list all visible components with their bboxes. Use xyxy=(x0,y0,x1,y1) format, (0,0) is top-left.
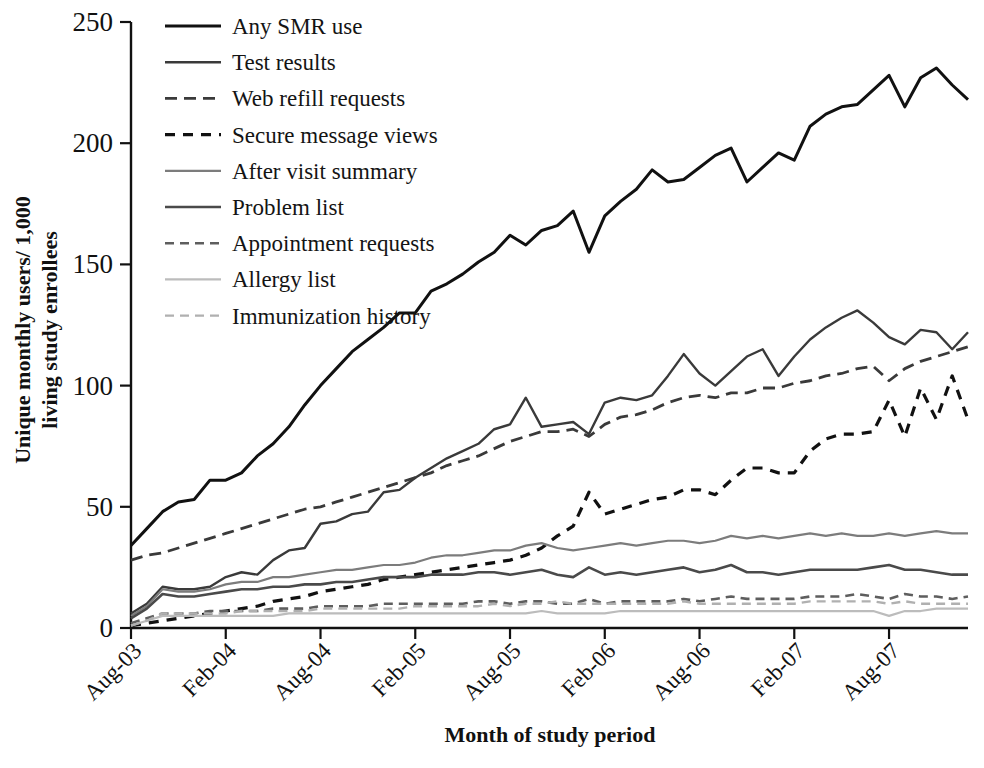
x-tick-label: Feb-04 xyxy=(178,638,242,702)
x-tick-label: Feb-06 xyxy=(557,638,621,702)
legend-label: Secure message views xyxy=(232,123,438,148)
x-tick-label: Aug-06 xyxy=(648,638,715,705)
y-axis-title-line2: living study enrollees xyxy=(37,231,62,429)
x-tick-label: Aug-03 xyxy=(79,638,146,705)
chart-figure: 050100150200250 Aug-03Feb-04Aug-04Feb-05… xyxy=(0,0,984,768)
legend-label: Immunization history xyxy=(232,304,431,329)
legend-label: After visit summary xyxy=(232,159,418,184)
line-chart: 050100150200250 Aug-03Feb-04Aug-04Feb-05… xyxy=(0,0,984,768)
x-axis-tick-labels: Aug-03Feb-04Aug-04Feb-05Aug-05Feb-06Aug-… xyxy=(79,638,904,706)
x-axis-tick-marks xyxy=(131,628,889,639)
y-tick-label: 150 xyxy=(73,249,114,279)
y-axis-title-line1: Unique monthly users/ 1,000 xyxy=(10,196,35,464)
x-axis-title: Month of study period xyxy=(445,722,656,747)
y-tick-label: 50 xyxy=(86,492,113,522)
x-tick-label: Feb-05 xyxy=(367,638,431,702)
x-tick-label: Aug-04 xyxy=(269,638,337,706)
y-tick-label: 0 xyxy=(100,613,114,643)
series-line-appointment-requests xyxy=(131,594,968,623)
legend-label: Test results xyxy=(232,50,336,75)
y-tick-label: 200 xyxy=(73,128,114,158)
y-axis-tick-labels: 050100150200250 xyxy=(73,7,114,643)
x-tick-label: Aug-05 xyxy=(458,638,525,705)
legend-label: Problem list xyxy=(232,195,344,220)
series-line-test-results xyxy=(131,310,968,613)
y-tick-label: 100 xyxy=(73,371,114,401)
legend-label: Web refill requests xyxy=(232,86,405,111)
y-tick-label: 250 xyxy=(73,7,114,37)
y-axis-tick-marks xyxy=(120,22,131,628)
legend-label: Any SMR use xyxy=(232,14,362,39)
series-group xyxy=(131,68,968,626)
chart-legend: Any SMR useTest resultsWeb refill reques… xyxy=(165,14,438,329)
x-tick-label: Aug-07 xyxy=(837,638,904,705)
series-line-web-refill-requests xyxy=(131,347,968,560)
x-tick-label: Feb-07 xyxy=(746,638,810,702)
legend-label: Allergy list xyxy=(232,267,336,292)
legend-label: Appointment requests xyxy=(232,231,435,256)
